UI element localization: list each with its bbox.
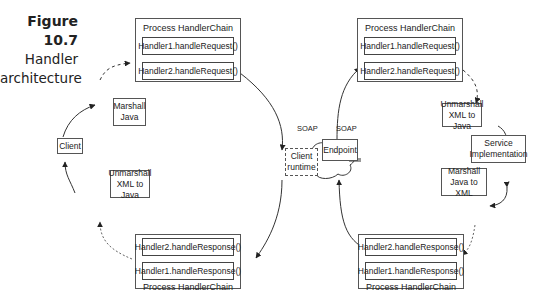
handler1-response: Handler1.handleResponse() xyxy=(142,262,234,280)
client-request-chain: Process HandlerChain Handler1.handleRequ… xyxy=(135,18,241,82)
server-request-chain: Process HandlerChain Handler1.handleRequ… xyxy=(357,18,463,82)
soap-label-right: SOAP xyxy=(336,124,357,133)
handler2-response: Handler2.handleResponse() xyxy=(365,238,457,256)
service-implementation-box: Service Implementation xyxy=(471,135,526,163)
unmarshall-xml-box: Unmarshall XML to Java xyxy=(442,103,482,127)
handler2-request: Handler2.handleRequest() xyxy=(142,62,234,80)
handler1-request: Handler1.handleRequest() xyxy=(364,37,456,55)
chain-title: Process HandlerChain xyxy=(136,282,240,291)
handler1-response: Handler1.handleResponse() xyxy=(365,262,457,280)
chain-title: Process HandlerChain xyxy=(358,23,462,33)
handler2-request: Handler2.handleRequest() xyxy=(364,62,456,80)
chain-title: Process HandlerChain xyxy=(359,282,463,291)
handler1-request: Handler1.handleRequest() xyxy=(142,37,234,55)
client-runtime-box: Client runtime xyxy=(285,148,318,176)
unmarshall-xml-box: Unmarshall XML to Java xyxy=(110,170,150,198)
marshall-java-to-xml-box: Marshall Java to XML xyxy=(441,168,487,196)
endpoint-box: Endpoint xyxy=(322,139,358,161)
server-response-chain: Handler2.handleResponse() Handler1.handl… xyxy=(358,234,464,289)
client-response-chain: Handler2.handleResponse() Handler1.handl… xyxy=(135,234,241,289)
marshall-java-box: Marshall Java xyxy=(113,98,146,126)
client-box: Client xyxy=(57,138,83,154)
chain-title: Process HandlerChain xyxy=(136,23,240,33)
handler2-response: Handler2.handleResponse() xyxy=(142,238,234,256)
soap-label-left: SOAP xyxy=(297,124,318,133)
